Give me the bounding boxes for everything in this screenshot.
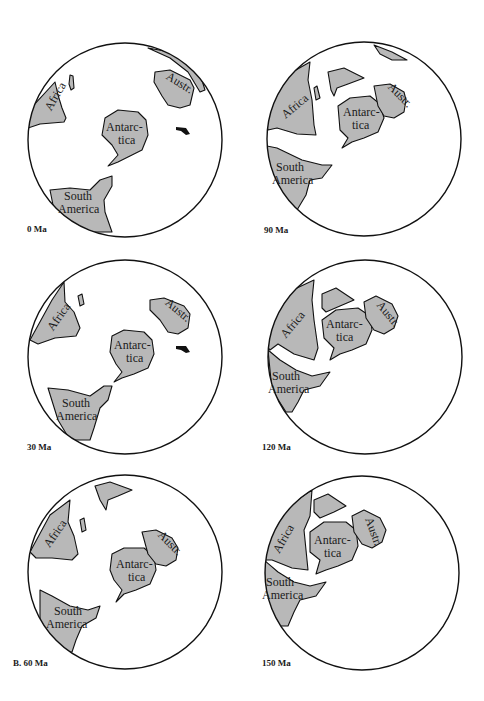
age-label: 0 Ma — [27, 224, 47, 234]
globe-panel-150ma: Africa Antarc- tica Austr. South America… — [242, 460, 484, 701]
age-label: 150 Ma — [262, 658, 291, 668]
globe-map-120ma: Africa Antarc- tica Austr. South America — [242, 240, 484, 460]
globe-map-30ma: Africa Antarc- tica Austr. South America — [0, 240, 242, 460]
label-antarctica: Antarc- — [343, 105, 380, 119]
globe-map-90ma: Africa Antarc- tica Austr. South America — [242, 0, 484, 240]
india-landmass — [95, 482, 132, 510]
india-landmass — [314, 494, 346, 518]
label-antarctica: Antarc- — [314, 533, 351, 547]
age-label: 90 Ma — [264, 225, 288, 235]
label-antarctica-2: tica — [126, 351, 144, 365]
globe-panel-60ma: Africa Antarc- tica Austr. South America… — [0, 460, 242, 701]
globe-panel-30ma: Africa Antarc- tica Austr. South America… — [0, 240, 242, 460]
label-antarctica: Antarc- — [326, 317, 363, 331]
label-south-america-2: America — [268, 382, 310, 396]
age-label: 120 Ma — [262, 442, 291, 452]
label-antarctica: Antarc- — [114, 338, 151, 352]
label-south-america-2: America — [58, 202, 100, 216]
label-antarctica-2: tica — [352, 118, 370, 132]
madagascar-landmass — [78, 294, 84, 306]
label-south-america: South — [276, 160, 304, 174]
label-south-america-2: America — [262, 588, 304, 602]
label-antarctica-2: tica — [336, 330, 354, 344]
label-south-america: South — [64, 189, 92, 203]
globe-panel-90ma: Africa Antarc- tica Austr. South America… — [242, 0, 484, 240]
age-label: 30 Ma — [27, 442, 51, 452]
globe-map-0ma: Africa Antarc- tica Austr. South America — [0, 0, 242, 240]
madagascar-landmass — [69, 75, 74, 90]
label-antarctica: Antarc- — [106, 120, 143, 134]
label-antarctica: Antarc- — [116, 557, 153, 571]
globe-panel-120ma: Africa Antarc- tica Austr. South America… — [242, 240, 484, 460]
label-south-america-2: America — [56, 409, 98, 423]
label-south-america: South — [54, 604, 82, 618]
india-landmass — [328, 68, 364, 96]
label-south-america: South — [62, 396, 90, 410]
new-zealand-island — [176, 346, 190, 353]
new-guinea-landmass — [374, 45, 407, 60]
label-antarctica-2: tica — [118, 133, 136, 147]
label-antarctica-2: tica — [128, 570, 146, 584]
label-south-america-2: America — [272, 173, 314, 187]
madagascar-landmass — [314, 86, 320, 100]
label-south-america-2: America — [46, 617, 88, 631]
age-label: B. 60 Ma — [13, 658, 48, 668]
label-antarctica-2: tica — [324, 546, 342, 560]
label-south-america: South — [266, 575, 294, 589]
madagascar-landmass — [80, 518, 86, 532]
label-south-america: South — [272, 369, 300, 383]
new-zealand-island — [176, 127, 190, 135]
globe-panel-0ma: Africa Antarc- tica Austr. South America… — [0, 0, 242, 240]
